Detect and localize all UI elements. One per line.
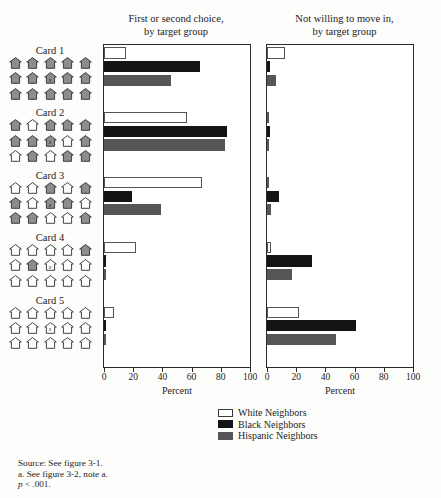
bar-row — [267, 139, 413, 150]
bar-row — [267, 47, 413, 58]
axis-tick-label: 20 — [121, 372, 145, 382]
house-icon — [59, 244, 77, 259]
house-icon — [6, 72, 24, 87]
axis-tick — [250, 368, 251, 372]
panel-title-right-line1: Not willing to move in, — [262, 13, 427, 26]
bar-group — [104, 307, 250, 369]
axis-tick-label: 80 — [372, 372, 396, 382]
house-icon — [59, 197, 77, 212]
bar-row — [267, 334, 413, 345]
house-icon — [6, 244, 24, 259]
bar-black — [104, 126, 227, 137]
house-icon — [59, 135, 77, 150]
bar-group — [267, 112, 413, 174]
chart-panel-first-or-second-choice — [103, 44, 251, 368]
axis-tick-label: 0 — [255, 372, 279, 382]
bar-hisp — [104, 204, 161, 215]
axis-tick — [133, 368, 134, 372]
house-icon — [24, 259, 42, 274]
card-block: Card 3x — [0, 169, 100, 231]
house-icon — [76, 119, 94, 134]
house-icon — [6, 88, 24, 103]
house-icon — [6, 307, 24, 322]
house-icon — [59, 182, 77, 197]
bar-group — [104, 112, 250, 174]
bar-hisp — [104, 334, 106, 345]
legend-item: White Neighbors — [218, 407, 318, 419]
house-icon — [24, 57, 42, 72]
axis-tick — [104, 368, 105, 372]
bar-hisp — [267, 75, 276, 86]
bar-white — [267, 112, 269, 123]
bar-row — [104, 47, 250, 58]
house-icon — [41, 244, 59, 259]
bar-black — [267, 61, 270, 72]
axis-tick-label: 0 — [92, 372, 116, 382]
bar-row — [104, 191, 250, 202]
house-icon — [6, 197, 24, 212]
axis-tick — [384, 368, 385, 372]
bar-white — [267, 242, 271, 253]
panel-title-left-line1: First or second choice, — [100, 13, 252, 26]
bar-row — [267, 191, 413, 202]
bar-white — [267, 307, 299, 318]
house-icon — [41, 337, 59, 352]
house-icon — [24, 182, 42, 197]
pvalue-value: < .001. — [23, 479, 51, 489]
house-icon — [24, 322, 42, 337]
house-icon — [24, 244, 42, 259]
bar-black — [267, 126, 270, 137]
bar-white — [104, 307, 114, 318]
house-icon — [24, 197, 42, 212]
bar-group — [104, 242, 250, 304]
bar-row — [104, 255, 250, 266]
bar-group — [267, 177, 413, 239]
bar-row — [104, 61, 250, 72]
bar-white — [104, 242, 136, 253]
legend-item: Hispanic Neighbors — [218, 430, 318, 442]
chart-panel-not-willing-to-move-in — [266, 44, 414, 368]
bar-row — [267, 255, 413, 266]
axis-tick-label: 40 — [313, 372, 337, 382]
house-icon — [6, 337, 24, 352]
house-grid: x — [0, 57, 100, 103]
bar-row — [267, 320, 413, 331]
bar-black — [267, 191, 279, 202]
house-icon — [41, 150, 59, 165]
house-grid: x — [0, 307, 100, 353]
bar-black — [267, 320, 356, 331]
house-icon — [59, 259, 77, 274]
house-icon — [24, 275, 42, 290]
house-icon — [24, 150, 42, 165]
bar-row — [104, 242, 250, 253]
bar-row — [267, 126, 413, 137]
house-icon — [76, 275, 94, 290]
axis-tick — [325, 368, 326, 372]
house-icon — [76, 337, 94, 352]
house-icon — [41, 119, 59, 134]
house-icon — [76, 212, 94, 227]
house-icon — [41, 307, 59, 322]
bar-row — [267, 204, 413, 215]
card-label: Card 3 — [0, 169, 100, 182]
legend-label: White Neighbors — [238, 407, 307, 419]
legend-swatch-hisp — [218, 432, 233, 440]
axis-tick-label: 40 — [150, 372, 174, 382]
card-label: Card 2 — [0, 106, 100, 119]
house-icon — [24, 72, 42, 87]
axis-tick-label: 20 — [284, 372, 308, 382]
bar-hisp — [104, 75, 171, 86]
axis-tick — [267, 368, 268, 372]
house-icon — [6, 119, 24, 134]
axis-title: Percent — [103, 385, 251, 396]
house-icon — [59, 88, 77, 103]
card-label: Card 1 — [0, 44, 100, 57]
bar-group — [267, 307, 413, 369]
axis-tick-label: 100 — [401, 372, 425, 382]
house-icon — [41, 182, 59, 197]
house-icon — [76, 322, 94, 337]
bar-row — [267, 75, 413, 86]
bar-group — [104, 47, 250, 109]
house-icon — [6, 259, 24, 274]
card-label: Card 4 — [0, 231, 100, 244]
